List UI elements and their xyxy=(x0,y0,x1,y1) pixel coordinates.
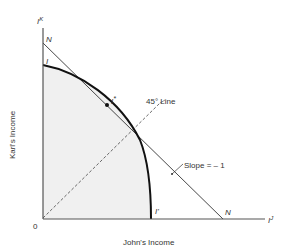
origin-label: 0 xyxy=(33,222,38,231)
x-axis-label: John's Income xyxy=(123,238,175,247)
feasible-region xyxy=(43,65,151,219)
slope-label: Slope = – 1 xyxy=(184,161,225,170)
slope-leader-dot xyxy=(171,173,173,175)
y-axis-label: Karl's Income xyxy=(8,110,17,159)
utility-possibility-diagram: IK N I I* 45° Line Slope = – 1 I' N IJ 0… xyxy=(0,0,283,251)
tangent-point-marker xyxy=(105,103,109,107)
slope-leader xyxy=(172,164,183,174)
curve-label-bottom: I' xyxy=(155,207,159,216)
forty-five-line-label: 45° Line xyxy=(146,97,176,106)
y-axis-symbol: IK xyxy=(37,16,44,26)
x-axis-symbol: IJ xyxy=(268,215,274,225)
line-label-bottom: N xyxy=(225,208,231,217)
curve-label-top: I xyxy=(46,57,49,66)
line-label-top: N xyxy=(46,35,52,44)
